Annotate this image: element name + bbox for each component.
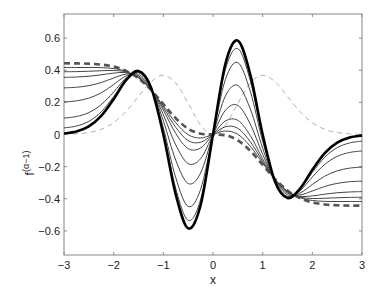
y-label-superscript: (α−1) [21, 151, 31, 172]
svg-text:f(α−1): f(α−1) [21, 151, 37, 176]
y-tick-label: −0.6 [38, 225, 60, 237]
x-tick-label: −1 [157, 259, 170, 271]
y-tick-label: −0.2 [38, 161, 60, 173]
x-tick-label: 3 [359, 259, 365, 271]
x-tick-label: −3 [58, 259, 71, 271]
y-axis-label: f(α−1) [21, 151, 37, 176]
x-tick-label: 1 [260, 259, 266, 271]
x-axis-label: x [210, 273, 216, 287]
x-tick-label: 2 [309, 259, 315, 271]
y-tick-label: 0.4 [45, 64, 60, 76]
y-tick-label: 0 [54, 129, 60, 141]
line-chart: −3−2−10123−0.6−0.4−0.200.20.40.6 x f(α−1… [0, 0, 383, 292]
x-tick-label: 0 [210, 259, 216, 271]
y-tick-label: 0.2 [45, 96, 60, 108]
y-tick-label: −0.4 [38, 193, 60, 205]
x-tick-label: −2 [107, 259, 120, 271]
y-tick-label: 0.6 [45, 32, 60, 44]
